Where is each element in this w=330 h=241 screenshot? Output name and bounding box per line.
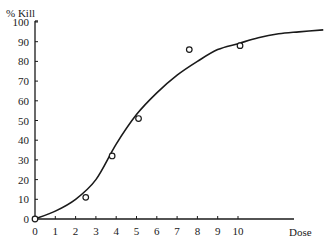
data-point-marker xyxy=(32,216,38,222)
x-tick-label: 3 xyxy=(93,225,99,237)
fitted-curve xyxy=(35,30,323,219)
y-tick-label: 10 xyxy=(18,193,30,205)
data-point-marker xyxy=(136,116,142,122)
y-tick-label: 20 xyxy=(18,174,30,186)
x-tick-label: 6 xyxy=(154,225,160,237)
x-tick-label: 2 xyxy=(73,225,79,237)
y-tick-label: 60 xyxy=(18,95,30,107)
y-tick-label: 30 xyxy=(18,154,30,166)
y-tick-label: 80 xyxy=(18,55,30,67)
y-axis-title: % Kill xyxy=(6,7,35,19)
dose-response-chart: 0102030405060708090100 012345678910 % Ki… xyxy=(0,0,330,241)
x-tick-label: 5 xyxy=(134,225,140,237)
data-point-marker xyxy=(83,195,89,201)
y-tick-label: 70 xyxy=(18,75,30,87)
axes: 0102030405060708090100 012345678910 xyxy=(13,16,295,237)
x-tick-label: 8 xyxy=(195,225,201,237)
y-tick-label: 40 xyxy=(18,134,30,146)
x-tick-label: 0 xyxy=(32,225,38,237)
x-tick-label: 4 xyxy=(113,225,119,237)
y-tick-label: 50 xyxy=(18,115,30,127)
data-point-marker xyxy=(109,153,115,159)
x-tick-label: 1 xyxy=(53,225,59,237)
x-tick-label: 7 xyxy=(174,225,180,237)
x-tick-label: 10 xyxy=(233,225,245,237)
y-axis-ticks: 0102030405060708090100 xyxy=(13,16,39,225)
x-tick-label: 9 xyxy=(215,225,221,237)
y-tick-label: 0 xyxy=(24,213,30,225)
y-tick-label: 90 xyxy=(18,36,30,48)
data-points xyxy=(32,43,243,222)
data-point-marker xyxy=(186,47,192,53)
x-axis-title: Dose xyxy=(289,226,312,238)
data-point-marker xyxy=(237,43,243,49)
